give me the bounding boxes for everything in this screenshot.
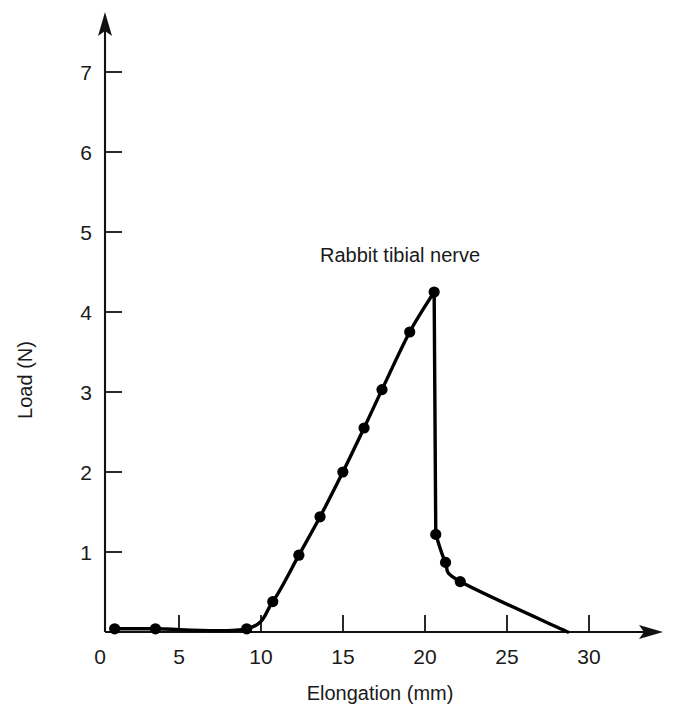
data-point-marker — [267, 596, 278, 607]
y-tick-label-7: 7 — [80, 61, 92, 84]
x-axis-title: Elongation (mm) — [307, 682, 454, 704]
x-tick-label-15: 15 — [331, 645, 354, 668]
elongation-axis — [105, 625, 663, 639]
x-tick-label-10: 10 — [249, 645, 272, 668]
data-point-marker — [440, 557, 451, 568]
load-axis — [98, 12, 112, 632]
data-point-marker — [430, 529, 441, 540]
load-elongation-chart: 1 2 3 4 5 6 7 0 5 10 15 20 25 30 — [0, 0, 673, 716]
x-tick-label-0: 0 — [94, 645, 106, 668]
y-tick-label-2: 2 — [80, 461, 92, 484]
y-tick-labels: 1 2 3 4 5 6 7 — [80, 61, 92, 564]
data-point-markers — [109, 286, 466, 634]
data-point-marker — [404, 326, 415, 337]
data-point-marker — [358, 422, 369, 433]
data-point-marker — [376, 384, 387, 395]
y-tick-group — [105, 72, 122, 552]
data-point-marker — [241, 623, 252, 634]
y-tick-label-6: 6 — [80, 141, 92, 164]
data-point-marker — [150, 623, 161, 634]
data-point-marker — [429, 286, 440, 297]
chart-figure: 1 2 3 4 5 6 7 0 5 10 15 20 25 30 — [0, 0, 673, 716]
data-point-marker — [337, 466, 348, 477]
y-tick-label-1: 1 — [80, 541, 92, 564]
load-elongation-curve — [115, 292, 568, 632]
x-tick-label-25: 25 — [495, 645, 518, 668]
data-point-marker — [293, 550, 304, 561]
data-point-marker — [455, 576, 466, 587]
data-point-marker — [109, 623, 120, 634]
y-tick-label-3: 3 — [80, 381, 92, 404]
series-annotation-label: Rabbit tibial nerve — [320, 244, 480, 266]
x-tick-label-30: 30 — [577, 645, 600, 668]
x-tick-label-20: 20 — [413, 645, 436, 668]
y-tick-label-5: 5 — [80, 221, 92, 244]
data-point-marker — [314, 511, 325, 522]
y-axis-title: Load (N) — [14, 341, 36, 419]
y-tick-label-4: 4 — [80, 301, 92, 324]
x-tick-label-5: 5 — [173, 645, 185, 668]
x-tick-labels: 0 5 10 15 20 25 30 — [94, 645, 601, 668]
